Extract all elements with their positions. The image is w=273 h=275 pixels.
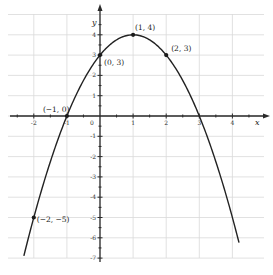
point-label: (−1, 0) [43,105,70,114]
y-tick-label: -4 [90,193,96,200]
y-tick-label: 2 [92,71,96,78]
data-point [32,215,36,219]
y-tick-label: -3 [90,173,96,180]
point-label: (−2, −5) [37,215,70,224]
parabola-chart: -2-101234-7-6-5-4-3-2-11234 (−1, 0)(0, 3… [0,0,273,275]
point-label: (2, 3) [171,44,191,53]
x-tick-label: 2 [164,119,168,126]
y-tick-label: -7 [90,254,96,261]
y-tick-label: -5 [90,214,96,221]
y-axis-arrow-icon [98,4,103,11]
y-tick-label: 4 [92,31,96,38]
data-point [131,33,135,37]
data-point [98,53,102,57]
x-axis-label: x [255,118,260,127]
x-axis-arrow-icon [263,114,270,119]
y-tick-label: -6 [90,234,96,241]
y-tick-label: 3 [92,51,96,58]
y-axis-label: y [91,18,97,27]
y-tick-label: -2 [90,153,96,160]
y-tick-label: -1 [90,132,96,139]
point-label: (0, 3) [104,58,124,67]
data-point [164,53,168,57]
x-tick-label: 0 [90,119,94,126]
x-tick-label: 1 [131,119,135,126]
x-tick-label: 4 [230,119,234,126]
y-tick-label: 1 [92,92,96,99]
x-tick-label: -2 [31,119,37,126]
point-label: (1, 4) [135,23,155,32]
data-point [65,114,69,118]
